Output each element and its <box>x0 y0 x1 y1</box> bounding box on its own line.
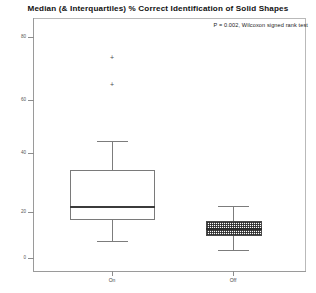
y-tick-0 <box>28 258 34 259</box>
y-tick-label-40: 40 <box>0 150 26 155</box>
y-tick-label-80: 80 <box>0 34 26 39</box>
outlier-point <box>109 81 116 88</box>
y-tick-40 <box>28 153 34 154</box>
plot-frame <box>33 18 306 272</box>
x-tick-label-on: On <box>92 277 132 283</box>
pvalue-annotation: P = 0.002, Wilcoxon signed rank test <box>214 22 308 28</box>
whisker-upper <box>112 141 113 170</box>
chart-figure: Median (& Interquartiles) % Correct Iden… <box>0 0 316 293</box>
box-iqr <box>70 170 155 220</box>
median-line <box>70 206 155 208</box>
x-tick-label-off: Off <box>213 277 253 283</box>
whisker-cap-lower <box>218 250 249 251</box>
whisker-cap-upper <box>97 141 128 142</box>
median-line <box>206 228 262 230</box>
y-tick-label-20: 20 <box>0 209 26 214</box>
x-tick-off <box>233 271 234 276</box>
chart-title: Median (& Interquartiles) % Correct Iden… <box>0 4 316 13</box>
whisker-cap-lower <box>97 241 128 242</box>
y-tick-80 <box>28 37 34 38</box>
whisker-upper <box>233 206 234 221</box>
y-axis-line <box>33 18 34 272</box>
y-tick-label-0: 0 <box>0 255 26 260</box>
y-tick-label-60: 60 <box>0 97 26 102</box>
x-tick-on <box>112 271 113 276</box>
whisker-lower <box>233 236 234 250</box>
x-axis-line <box>33 271 306 272</box>
whisker-lower <box>112 220 113 241</box>
y-tick-20 <box>28 212 34 213</box>
whisker-cap-upper <box>218 206 249 207</box>
y-tick-60 <box>28 100 34 101</box>
outlier-point <box>109 54 116 61</box>
